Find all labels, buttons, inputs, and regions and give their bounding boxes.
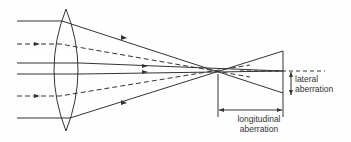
lateral-label-line2: aberration — [295, 84, 333, 94]
lens — [54, 9, 78, 131]
ray-outer-top — [17, 21, 283, 93]
lateral-label: lateral aberration — [295, 74, 333, 94]
diagram-graphic — [0, 0, 351, 142]
longitudinal-label-line2: aberration — [231, 124, 287, 134]
longitudinal-label-line1: longitudinal — [231, 114, 287, 124]
spherical-aberration-diagram: lateral aberration longitudinal aberrati… — [0, 0, 351, 142]
ray-outer-bottom — [17, 51, 283, 118]
lateral-label-line1: lateral — [295, 74, 333, 84]
longitudinal-label: longitudinal aberration — [231, 114, 287, 134]
ray-paraxial-top — [17, 63, 283, 71]
ray-intermediate-bottom — [17, 65, 250, 96]
